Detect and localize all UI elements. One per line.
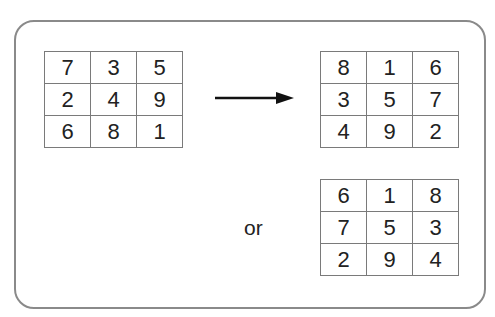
grid-cell: 8 [321, 52, 367, 84]
grid-row: 8 1 6 [321, 52, 459, 84]
source-magic-square-grid: 7 3 5 2 4 9 6 8 1 [44, 51, 183, 148]
grid-cell: 9 [367, 244, 413, 276]
grid-cell: 4 [413, 244, 459, 276]
grid-row: 3 5 7 [321, 84, 459, 116]
grid-cell: 1 [367, 180, 413, 212]
grid-cell: 3 [321, 84, 367, 116]
result-magic-square-b-grid: 6 1 8 7 5 3 2 9 4 [320, 179, 459, 276]
grid-cell: 8 [91, 116, 137, 148]
grid-cell: 7 [45, 52, 91, 84]
grid-cell: 9 [367, 116, 413, 148]
grid-cell: 7 [321, 212, 367, 244]
grid-cell: 5 [137, 52, 183, 84]
grid-row: 7 3 5 [45, 52, 183, 84]
grid-cell: 2 [321, 244, 367, 276]
grid-cell: 6 [321, 180, 367, 212]
grid-row: 7 5 3 [321, 212, 459, 244]
grid-row: 6 1 8 [321, 180, 459, 212]
grid-cell: 1 [367, 52, 413, 84]
grid-cell: 1 [137, 116, 183, 148]
grid-row: 6 8 1 [45, 116, 183, 148]
grid-cell: 7 [413, 84, 459, 116]
grid-cell: 9 [137, 84, 183, 116]
grid-row: 2 4 9 [45, 84, 183, 116]
grid-cell: 5 [367, 84, 413, 116]
grid-row: 4 9 2 [321, 116, 459, 148]
grid-cell: 6 [413, 52, 459, 84]
grid-cell: 6 [45, 116, 91, 148]
grid-cell: 3 [91, 52, 137, 84]
result-magic-square-a-grid: 8 1 6 3 5 7 4 9 2 [320, 51, 459, 148]
grid-cell: 2 [413, 116, 459, 148]
grid-cell: 8 [413, 180, 459, 212]
or-label: or [244, 216, 263, 240]
grid-cell: 3 [413, 212, 459, 244]
grid-row: 2 9 4 [321, 244, 459, 276]
grid-cell: 2 [45, 84, 91, 116]
grid-cell: 5 [367, 212, 413, 244]
grid-cell: 4 [91, 84, 137, 116]
grid-cell: 4 [321, 116, 367, 148]
right-arrow-icon [214, 90, 296, 106]
